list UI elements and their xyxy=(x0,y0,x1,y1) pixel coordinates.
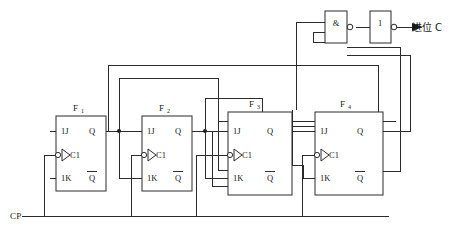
ff2-label-sub: 2 xyxy=(167,108,170,114)
ff1-pin-qbar: Q xyxy=(89,173,95,183)
ff2-label: F xyxy=(159,103,164,113)
ff3-pin-clk: C1 xyxy=(242,150,252,160)
wire-fb-ff3-j xyxy=(218,78,228,121)
ff4-clock-bubble-icon xyxy=(314,152,319,157)
ff2-pin-j: 1J xyxy=(147,126,155,136)
ff3-pin-q: Q xyxy=(267,126,273,136)
ff4-pin-q: Q xyxy=(357,126,363,136)
wire-clock-ff1 xyxy=(44,155,56,216)
ff2-clock-bubble-icon xyxy=(141,152,146,157)
ff4-label: F xyxy=(340,99,345,109)
ff1-label-sub: 1 xyxy=(81,108,84,114)
and-gate-symbol: & xyxy=(333,18,340,28)
and-gate[interactable]: & xyxy=(325,11,353,43)
carry-output-label: 进位 C xyxy=(412,21,442,33)
flipflop-f2[interactable]: F 2 1J C1 1K Q Q xyxy=(141,103,192,191)
ff1-pin-q: Q xyxy=(89,126,95,136)
circuit-svg: F 1 1J C1 1K Q Q F 2 1J C1 1K Q Q xyxy=(0,0,454,233)
ff2-pin-q: Q xyxy=(175,126,181,136)
ff1-pin-k: 1K xyxy=(61,173,72,183)
flipflop-f1[interactable]: F 1 1J C1 1K Q Q xyxy=(50,103,106,191)
ff3-clock-bubble-icon xyxy=(227,152,232,157)
ff4-label-sub: 4 xyxy=(348,104,351,110)
wire-fb-ff3-k xyxy=(218,78,228,170)
circuit-diagram: F 1 1J C1 1K Q Q F 2 1J C1 1K Q Q xyxy=(0,0,454,233)
flipflop-f3[interactable]: F 3 1J C1 1K Q Q xyxy=(227,99,292,195)
ff2-pin-clk: C1 xyxy=(156,150,166,160)
buffer-gate[interactable]: 1 xyxy=(370,11,397,43)
ff1-label: F xyxy=(73,103,78,113)
ff4-pin-clk: C1 xyxy=(329,150,339,160)
clock-input-label: CP xyxy=(10,211,22,221)
ff4-pin-j: 1J xyxy=(320,126,328,136)
wire-ff3-to-ff4k xyxy=(292,165,315,178)
ff3-label: F xyxy=(249,99,254,109)
flipflop-f4[interactable]: F 4 1J C1 1K Q Q xyxy=(314,99,383,195)
ff1-pin-j: 1J xyxy=(61,126,69,136)
wire-clock-ff4 xyxy=(302,155,315,216)
ff3-label-sub: 3 xyxy=(257,104,260,110)
ff2-pin-k: 1K xyxy=(147,173,158,183)
ff1-pin-clk: C1 xyxy=(70,150,80,160)
wire-clock-ff2 xyxy=(131,178,142,216)
ff4-pin-qbar: Q xyxy=(357,173,363,183)
ff3-pin-qbar: Q xyxy=(267,173,273,183)
wire-clock-ff2b xyxy=(131,155,142,178)
and-gate-output-bubble-icon xyxy=(347,24,353,30)
buffer-gate-symbol: 1 xyxy=(378,18,382,28)
ff1-clock-bubble-icon xyxy=(55,152,60,157)
buffer-gate-output-bubble-icon xyxy=(391,24,397,30)
ff2-pin-qbar: Q xyxy=(175,173,181,183)
ff3-pin-j: 1J xyxy=(233,126,241,136)
ff4-pin-k: 1K xyxy=(320,173,331,183)
ff3-pin-k: 1K xyxy=(233,173,244,183)
